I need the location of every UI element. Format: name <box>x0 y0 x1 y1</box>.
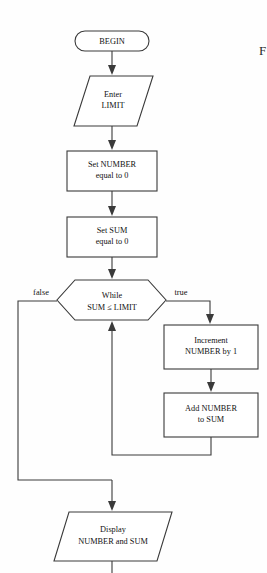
add-number-label-line1: Add NUMBER <box>185 404 237 413</box>
arrow-head-icon <box>108 321 116 331</box>
arrow-head-icon <box>108 269 116 279</box>
increment-label-line2: NUMBER by 1 <box>185 347 237 356</box>
connector-false-branch <box>18 301 112 480</box>
node-set-number[interactable]: Set NUMBER equal to 0 <box>67 151 157 191</box>
display-label-line2: NUMBER and SUM <box>78 537 148 546</box>
flowchart-page: BEGIN Enter LIMIT Set NUMBER equal to 0 <box>0 0 267 573</box>
connector-enter-to-setnumber <box>108 126 116 150</box>
connector-begin-to-enter <box>108 51 116 75</box>
add-number-label-line2: to SUM <box>198 415 225 424</box>
arrow-head-icon <box>108 206 116 216</box>
set-number-label-line1: Set NUMBER <box>88 160 137 169</box>
flowchart-canvas: BEGIN Enter LIMIT Set NUMBER equal to 0 <box>0 0 267 573</box>
branch-label-false: false <box>33 288 49 297</box>
connector-true-branch <box>166 301 214 324</box>
node-increment-number[interactable]: Increment NUMBER by 1 <box>164 325 258 369</box>
arrow-head-icon <box>207 382 215 392</box>
display-label-line1: Display <box>100 525 127 534</box>
node-display-results[interactable]: Display NUMBER and SUM <box>54 512 172 561</box>
node-begin[interactable]: BEGIN <box>75 31 149 51</box>
enter-limit-label-line2: LIMIT <box>101 101 124 110</box>
while-label-line1: While <box>102 291 123 300</box>
connector-setsum-to-while <box>108 257 116 279</box>
node-while-condition[interactable]: While SUM ≤ LIMIT <box>57 280 166 320</box>
set-number-label-line2: equal to 0 <box>96 171 129 180</box>
caption-fragment: F <box>259 43 266 58</box>
connector-increment-to-add <box>207 369 215 392</box>
arrow-head-icon <box>108 501 116 511</box>
node-set-sum[interactable]: Set SUM equal to 0 <box>67 217 157 257</box>
connector-to-display <box>108 480 116 511</box>
while-decision-shape <box>57 280 166 320</box>
node-enter-limit[interactable]: Enter LIMIT <box>74 76 153 126</box>
arrow-head-icon <box>108 140 116 150</box>
enter-limit-label-line1: Enter <box>104 90 122 99</box>
while-label-line2: SUM ≤ LIMIT <box>87 303 137 312</box>
connector-setnumber-to-setsum <box>108 191 116 216</box>
begin-label: BEGIN <box>99 37 124 46</box>
branch-label-true: true <box>174 288 187 297</box>
arrow-head-icon <box>108 65 116 75</box>
increment-label-line1: Increment <box>194 336 228 345</box>
set-sum-label-line1: Set SUM <box>97 226 128 235</box>
set-sum-label-line2: equal to 0 <box>96 237 129 246</box>
node-add-number[interactable]: Add NUMBER to SUM <box>164 393 258 437</box>
arrow-head-icon <box>206 314 214 324</box>
